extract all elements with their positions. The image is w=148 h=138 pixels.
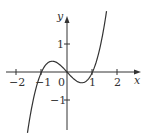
y-tick-label--1: −1 (50, 94, 66, 107)
x-tick-label--2: −2 (9, 76, 25, 89)
x-tick-label--1: −1 (35, 76, 51, 89)
y-tick-label-1: 1 (57, 38, 64, 51)
y-axis-label: y (56, 10, 64, 23)
x-tick-label-2: 2 (114, 76, 121, 89)
y-axis-arrow-icon (65, 16, 70, 23)
cubic-function-graph: −2 −1 0 1 2 x 1 −1 y (0, 0, 148, 138)
origin-label: 0 (58, 76, 65, 89)
x-tick-label-1: 1 (89, 76, 96, 89)
x-axis-label: x (134, 74, 141, 87)
